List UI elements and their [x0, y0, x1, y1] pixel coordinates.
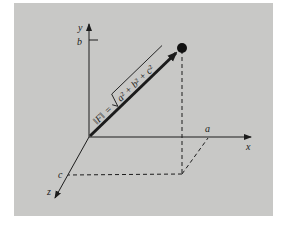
x-axis-label: x — [245, 141, 251, 152]
vector-arrow — [90, 53, 176, 136]
y-axis-label: y — [77, 22, 83, 33]
dashed-to-c — [68, 174, 182, 175]
endpoint-dot — [177, 43, 187, 53]
c-label: c — [58, 169, 63, 180]
vector-diagram: y b x a z c ‖F‖ = a² + b² + c² — [0, 0, 283, 229]
magnitude-formula: ‖F‖ = a² + b² + c² — [89, 46, 172, 127]
z-axis-label: z — [46, 186, 51, 197]
a-label: a — [205, 123, 210, 134]
z-axis — [55, 137, 89, 198]
formula-rhs: a² + b² + c² — [114, 62, 156, 103]
dashed-to-a — [182, 138, 208, 174]
b-label: b — [77, 36, 82, 47]
